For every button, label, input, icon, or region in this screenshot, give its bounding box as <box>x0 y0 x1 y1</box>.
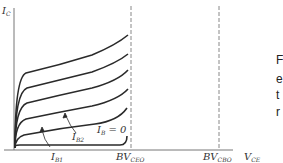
ib1-label: IB1 <box>51 152 63 163</box>
side-text-3: r <box>276 106 280 118</box>
x-axis-label: VCE <box>244 152 260 163</box>
bv-cbo-label: BVCBO <box>203 152 232 163</box>
bjt-output-characteristics <box>0 0 283 163</box>
y-axis-label: IC <box>2 6 11 17</box>
curve-ib0 <box>15 136 127 148</box>
ib2-arrow-icon <box>63 113 67 118</box>
leader-lines <box>40 113 76 147</box>
ib2-label: IB2 <box>72 132 84 143</box>
side-text-2: t <box>276 89 279 101</box>
side-text-0: F <box>276 54 283 66</box>
side-text-1: e <box>276 73 283 85</box>
ib0-label: IB = 0 <box>97 125 126 136</box>
ib1-arrow-icon <box>40 127 44 132</box>
bv-ceo-label: BVCEO <box>116 152 144 163</box>
